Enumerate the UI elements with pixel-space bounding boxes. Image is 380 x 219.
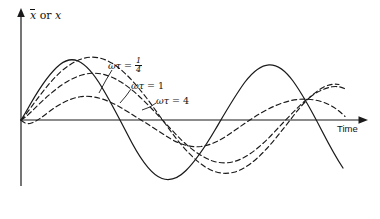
figure-canvas: x or x Time ωτ = 14 ωτ = 1 ωτ = 4: [0, 0, 380, 219]
annotation-omega-tau-quarter: ωτ = 14: [108, 57, 142, 74]
curve-omega-tau-quarter: [21, 57, 339, 173]
x-axis-label: Time: [337, 124, 358, 134]
y-axis-arrow-icon: [17, 8, 25, 17]
annotation-prefix: ωτ =: [156, 95, 183, 106]
y-axis-label-plain: x: [55, 9, 61, 22]
leader-line-omega-tau-one: [120, 89, 131, 103]
overbar-icon: [30, 9, 35, 10]
y-axis-label-or: or: [36, 9, 55, 22]
annotation-prefix: ωτ =: [131, 80, 158, 91]
x-bar-symbol: x: [30, 10, 36, 21]
annotation-omega-tau-one: ωτ = 1: [131, 81, 164, 91]
y-axis-label-bar: x: [30, 9, 36, 22]
fraction-denominator: 4: [135, 66, 142, 74]
y-axis: [17, 8, 25, 186]
annotation-omega-tau-four: ωτ = 4: [156, 96, 189, 106]
annotation-value: 1: [158, 80, 164, 91]
x-axis-arrow-icon: [359, 116, 369, 124]
fraction-one-quarter: 14: [135, 57, 142, 74]
annotation-value: 4: [183, 95, 189, 106]
plot-area: [0, 0, 380, 219]
leader-line-omega-tau-four: [142, 103, 156, 110]
annotation-prefix: ωτ =: [108, 60, 135, 71]
y-axis-label: x or x: [30, 10, 61, 21]
